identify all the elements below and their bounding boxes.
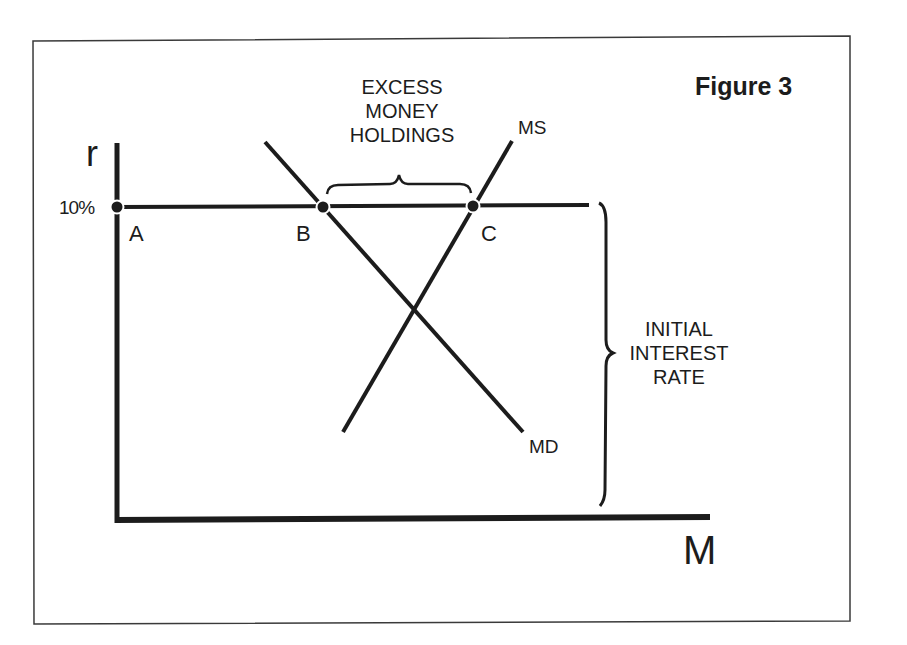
initial-rate-brace-icon xyxy=(599,203,613,506)
x-axis xyxy=(115,517,710,520)
point-b-label: B xyxy=(296,223,311,245)
figure-title: Figure 3 xyxy=(695,74,792,99)
point-a-label: A xyxy=(129,223,144,245)
figure-3-diagram: Figure 3 r M 10% A B C MS MD EXCESS MONE… xyxy=(0,0,907,645)
point-c-dot xyxy=(467,200,480,213)
excess-brace-icon xyxy=(327,175,471,194)
ms-label: MS xyxy=(518,118,547,137)
point-c-label: C xyxy=(481,223,497,245)
initial-rate-annotation: INITIAL INTEREST RATE xyxy=(621,317,737,389)
rate-line-10pct xyxy=(117,205,589,207)
x-axis-label: M xyxy=(683,530,716,570)
y-axis-label: r xyxy=(86,136,98,172)
excess-money-annotation: EXCESS MONEY HOLDINGS xyxy=(340,75,464,147)
initial-line-3: RATE xyxy=(621,365,737,389)
initial-line-1: INITIAL xyxy=(621,317,737,341)
md-label: MD xyxy=(529,437,559,456)
point-a-dot xyxy=(111,201,124,214)
excess-line-3: HOLDINGS xyxy=(340,123,464,147)
y-tick-10pct: 10% xyxy=(59,198,94,217)
excess-line-1: EXCESS xyxy=(340,75,464,99)
point-b-dot xyxy=(317,201,330,214)
excess-line-2: MONEY xyxy=(340,99,464,123)
initial-line-2: INTEREST xyxy=(621,341,737,365)
